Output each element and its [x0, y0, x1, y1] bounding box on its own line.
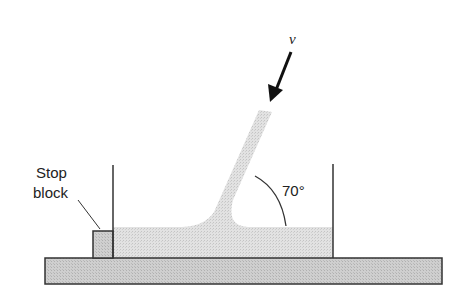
- stop-block-label-line2: block: [33, 184, 69, 201]
- base-plate: [45, 258, 442, 284]
- velocity-arrow-icon: [268, 52, 291, 102]
- angle-label: 70°: [282, 182, 305, 199]
- velocity-label: v: [289, 31, 296, 47]
- jet-diagram: v 70° Stop block: [0, 0, 463, 307]
- stop-block-label-line1: Stop: [36, 164, 67, 181]
- stop-block-leader: [78, 200, 100, 229]
- stop-block: [93, 231, 113, 258]
